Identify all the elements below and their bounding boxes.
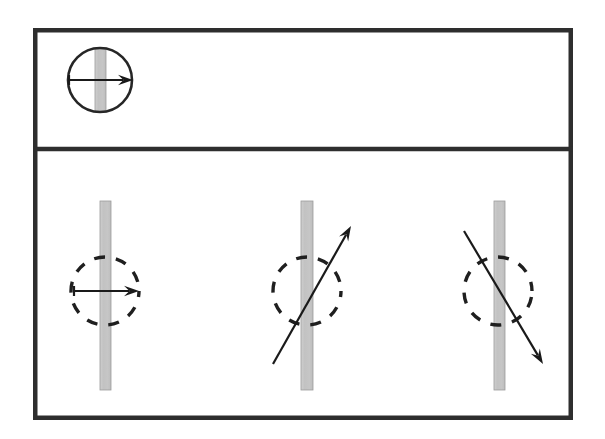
figure-root <box>0 0 605 439</box>
polarization-diagram <box>0 0 605 439</box>
figure-horizontal-bar <box>100 201 111 390</box>
